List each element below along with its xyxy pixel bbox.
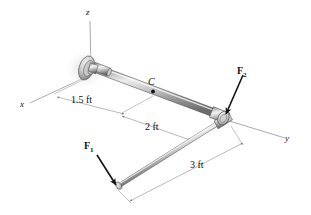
force-f2-arrow[interactable] xyxy=(226,75,243,114)
rod-force-diagram: z x y C 1.5 ft 2 ft 3 ft F2 F1 xyxy=(0,0,311,215)
force-f1-arrow[interactable] xyxy=(97,155,116,185)
z-axis-label: z xyxy=(86,8,90,17)
ext-line-c xyxy=(122,96,153,113)
lower-rod-highlight xyxy=(120,119,221,183)
force-f1-subscript: 1 xyxy=(90,146,94,154)
dimension-3-ft-label: 3 ft xyxy=(190,160,204,170)
ext-line-elbow-3ft xyxy=(231,126,243,145)
force-f1-label: F1 xyxy=(84,141,94,154)
point-c-label: C xyxy=(148,77,155,87)
lower-rod xyxy=(114,118,223,191)
x-axis-label: x xyxy=(20,100,24,109)
y-axis-label: y xyxy=(285,134,289,143)
dim-line-3ft xyxy=(130,143,243,201)
force-f2-label: F2 xyxy=(237,66,247,79)
dimension-1-5-ft-label: 1.5 ft xyxy=(71,95,92,105)
y-axis-line xyxy=(226,120,285,138)
force-f2-subscript: 2 xyxy=(243,71,247,79)
upper-rod xyxy=(92,62,225,120)
upper-rod-highlight xyxy=(98,67,225,115)
point-c-marker xyxy=(151,90,155,94)
dimension-2-ft-label: 2 ft xyxy=(145,122,159,132)
diagram-canvas xyxy=(0,0,311,215)
ext-line-rod-end xyxy=(118,190,131,203)
